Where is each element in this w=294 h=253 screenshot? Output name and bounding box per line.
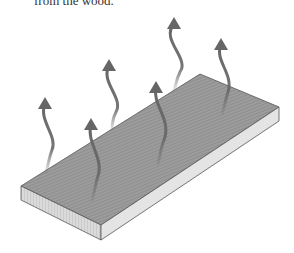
arrow-up-icon — [149, 81, 163, 93]
arrow-up-icon — [167, 17, 181, 29]
wood-slab-diagram — [0, 0, 294, 253]
wood-slab — [21, 74, 279, 240]
arrow-up-icon — [102, 59, 116, 71]
arrow-up-icon — [84, 118, 98, 130]
arrow-up-icon — [38, 97, 52, 109]
arrow-up-icon — [214, 38, 228, 50]
